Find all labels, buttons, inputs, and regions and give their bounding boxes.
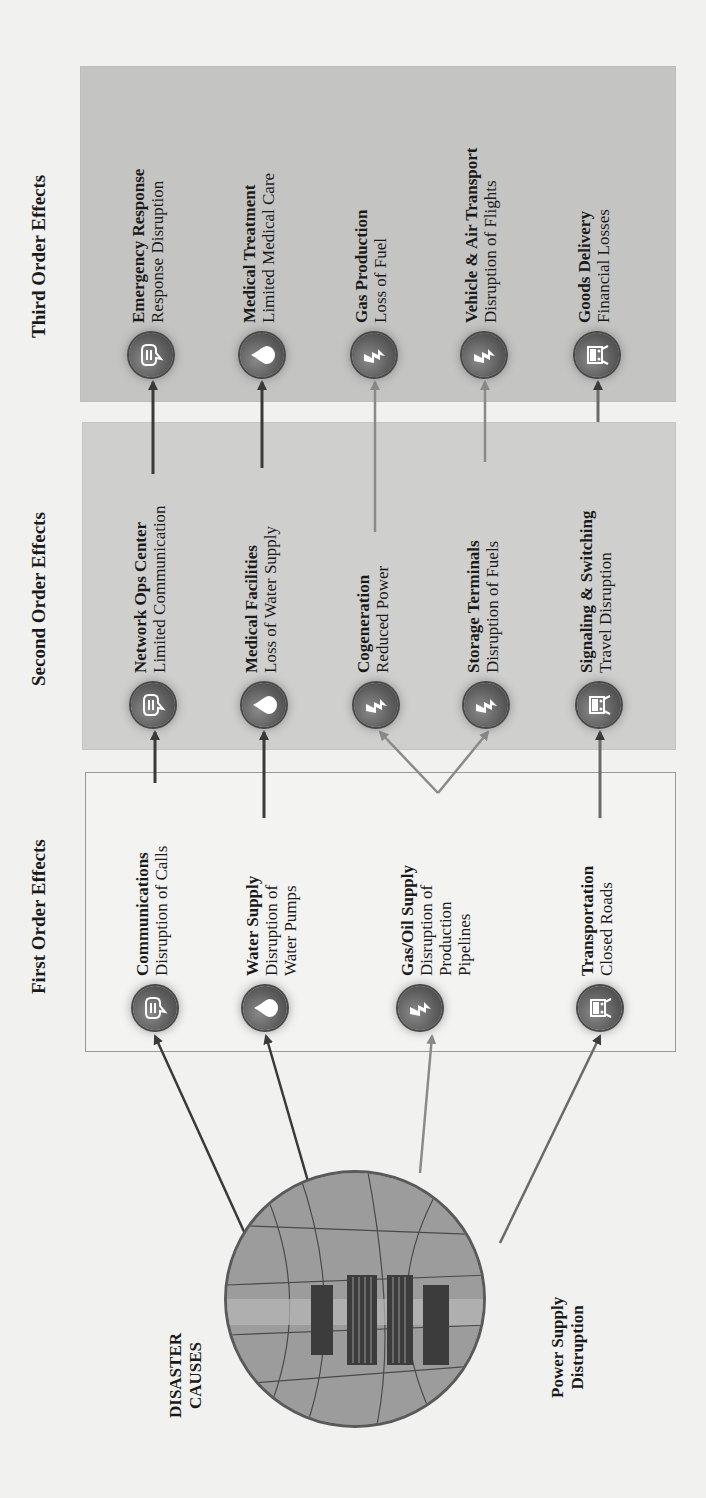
node-title: Medical Treatment [240,173,259,323]
second-node-storage-terminals[interactable]: Storage TerminalsDisruption of Fuels [464,540,508,727]
cause-subtitle-line1: Power Supply [548,1297,568,1398]
first-node-gas-oil-supply[interactable]: Gas/Oil SupplyDisruption ofProductionPip… [398,865,474,1030]
node-title: Gas Production [352,209,371,323]
lightning-bolt-icon [352,333,396,377]
third-node-vehicle-air-transport[interactable]: Vehicle & Air TransportDisruption of Fli… [462,147,506,377]
node-desc: Disruption of [417,865,436,976]
first-order-title: First Order Effects [28,839,50,994]
train-icon [578,986,622,1030]
first-node-transportation[interactable]: TransportationClosed Roads [578,866,622,1030]
node-title: Gas/Oil Supply [398,865,417,976]
node-title: Water Supply [243,876,262,976]
arrow-cause-communications [155,1036,256,1258]
second-order-title: Second Order Effects [28,512,50,686]
cause-title-line2: CAUSES [186,1333,206,1418]
node-desc: Production [436,865,455,976]
node-title: Transportation [578,866,597,976]
second-node-signaling-switching[interactable]: Signaling & SwitchingTravel Disruption [577,511,621,728]
train-icon [575,333,619,377]
node-desc: Pipelines [455,865,474,976]
node-desc: Disruption of Flights [481,147,500,323]
first-node-water-supply[interactable]: Water SupplyDisruption ofWater Pumps [243,876,300,1030]
cascading-effects-diagram: First Order Effects Second Order Effects… [0,0,706,1498]
second-node-medical-facilities[interactable]: Medical FacilitiesLoss of Water Supply [242,526,286,727]
node-title: Communications [133,846,152,976]
third-node-medical-treatment[interactable]: Medical TreatmentLimited Medical Care [240,173,284,377]
node-desc: Limited Communication [150,505,169,673]
node-title: Goods Delivery [575,209,594,323]
node-desc: Disruption of Calls [152,846,171,976]
node-desc: Financial Losses [594,209,613,323]
speech-bubble-icon [129,333,173,377]
water-drop-icon [240,333,284,377]
water-drop-icon [242,683,286,727]
node-desc: Loss of Water Supply [261,526,280,673]
speech-bubble-icon [133,986,177,1030]
node-title: Storage Terminals [464,540,483,673]
second-node-network-ops-center[interactable]: Network Ops CenterLimited Communication [131,505,175,727]
third-node-emergency-response[interactable]: Emergency ResponseResponse Disruption [129,169,173,377]
lightning-bolt-icon [398,986,442,1030]
cause-subtitle: Power Supply Distruption [548,1297,588,1398]
lightning-bolt-icon [462,333,506,377]
third-order-title: Third Order Effects [28,175,50,338]
power-substation-photo [224,1170,486,1428]
cause-subtitle-line2: Distruption [568,1297,588,1398]
node-desc: Reduced Power [373,566,392,673]
substation-illustration [227,1170,486,1425]
node-desc: Limited Medical Care [259,173,278,323]
lightning-bolt-icon [464,683,508,727]
cause-title: DISASTER CAUSES [166,1333,206,1418]
node-title: Cogeneration [354,566,373,673]
node-desc: Travel Disruption [596,511,615,674]
first-node-communications[interactable]: CommunicationsDisruption of Calls [133,846,177,1030]
third-node-gas-production[interactable]: Gas ProductionLoss of Fuel [352,209,396,377]
node-desc: Disruption of [262,876,281,976]
train-icon [577,683,621,727]
second-node-cogeneration[interactable]: CogenerationReduced Power [354,566,398,727]
speech-bubble-icon [131,683,175,727]
arrow-cause-transport [500,1036,600,1243]
node-title: Network Ops Center [131,505,150,673]
node-desc: Water Pumps [281,876,300,976]
node-title: Emergency Response [129,169,148,323]
node-desc: Disruption of Fuels [483,540,502,673]
node-title: Medical Facilities [242,526,261,673]
node-title: Signaling & Switching [577,511,596,674]
arrow-cause-gasoil [420,1036,432,1173]
node-desc: Response Disruption [148,169,167,323]
node-title: Vehicle & Air Transport [462,147,481,323]
cause-title-line1: DISASTER [166,1333,186,1418]
lightning-bolt-icon [354,683,398,727]
third-node-goods-delivery[interactable]: Goods DeliveryFinancial Losses [575,209,619,377]
water-drop-icon [243,986,287,1030]
node-desc: Loss of Fuel [371,209,390,323]
node-desc: Closed Roads [597,866,616,976]
